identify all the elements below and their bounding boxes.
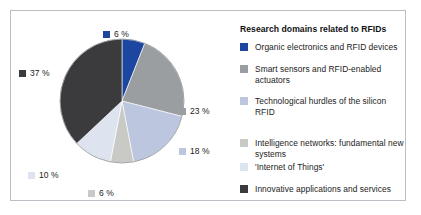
legend-swatch-intelligence-networks [240,139,248,147]
legend-label-intelligence-networks: Intelligence networks: fundamental new s… [255,138,404,159]
legend-title: Research domains related to RFIDs [240,24,402,35]
pie-label-internet-of-things: 10 % [28,170,59,180]
pie-label-value-technological-hurdles: 18 % [190,146,210,156]
legend-label-innovative-applications: Innovative applications and services [255,184,391,195]
pie-label-intelligence-networks: 6 % [88,188,114,198]
pie-label-organic-electronics: 6 % [103,29,129,39]
legend-swatch-internet-of-things [240,163,248,171]
legend-swatch-smart-sensors [240,65,248,73]
legend-label-smart-sensors: Smart sensors and RFID-enabled actuators [255,64,404,85]
pie-chart [59,38,185,164]
legend-item-internet-of-things: 'Internet of Things' [240,162,404,173]
pie-label-value-organic-electronics: 6 % [114,29,129,39]
legend-swatch-technological-hurdles [240,97,248,105]
pie-label-swatch-organic-electronics [103,31,110,38]
legend-swatch-innovative-applications [240,185,248,193]
pie-label-innovative-applications: 37 % [19,68,50,78]
pie-label-swatch-intelligence-networks [88,190,95,197]
legend-label-technological-hurdles: Technological hurdles of the silicon RFI… [255,96,404,117]
pie-label-value-innovative-applications: 37 % [30,68,50,78]
pie-label-swatch-innovative-applications [19,70,26,77]
legend-item-intelligence-networks: Intelligence networks: fundamental new s… [240,138,404,159]
pie-label-value-internet-of-things: 10 % [39,170,59,180]
pie-label-value-smart-sensors: 23 % [190,106,210,116]
legend-item-technological-hurdles: Technological hurdles of the silicon RFI… [240,96,404,117]
pie-label-value-intelligence-networks: 6 % [99,188,114,198]
figure-frame: 6 % 37 % 23 % 18 % 10 % 6 % Research dom… [10,10,406,201]
pie-label-smart-sensors: 23 % [179,106,210,116]
legend-swatch-organic-electronics [240,43,248,51]
pie-label-swatch-technological-hurdles [179,148,186,155]
pie-label-swatch-smart-sensors [179,108,186,115]
legend-label-internet-of-things: 'Internet of Things' [255,162,324,173]
legend-item-innovative-applications: Innovative applications and services [240,184,404,195]
legend-label-organic-electronics: Organic electronics and RFID devices [255,42,397,53]
legend-item-organic-electronics: Organic electronics and RFID devices [240,42,404,53]
legend-item-smart-sensors: Smart sensors and RFID-enabled actuators [240,64,404,85]
legend-panel: Research domains related to RFIDs Organi… [229,11,407,202]
pie-chart-panel: 6 % 37 % 23 % 18 % 10 % 6 % [11,11,229,202]
pie-label-swatch-internet-of-things [28,172,35,179]
pie-label-technological-hurdles: 18 % [179,146,210,156]
